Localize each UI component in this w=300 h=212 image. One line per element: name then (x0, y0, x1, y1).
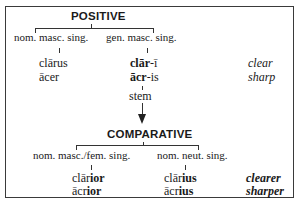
positive-right-tick (147, 48, 148, 53)
comparative-left-label: nom. masc./fem. sing. (33, 149, 130, 161)
stem: ācr (130, 70, 147, 84)
stem: ācr (164, 184, 179, 198)
form-acrius: ācrius (164, 184, 193, 199)
positive-heading: POSITIVE (71, 10, 126, 22)
form-clarus: clārus (39, 56, 68, 71)
stem: clār (164, 171, 182, 185)
down-arrow-icon (138, 114, 146, 124)
stem: clār (72, 171, 90, 185)
gloss-clear: clear (248, 56, 273, 71)
form-acr-is: ācr-is (130, 70, 159, 85)
comparative-right-label: nom. neut. sing. (157, 149, 228, 161)
comparative-bracket (76, 145, 198, 146)
ending: ior (90, 171, 105, 185)
form-acrior: ācrior (72, 184, 101, 199)
stem-label: stem (129, 89, 152, 104)
ending: -is (147, 70, 159, 84)
ending: ius (182, 171, 197, 185)
positive-left-label: nom. masc. sing. (14, 31, 88, 43)
form-acer: ācer (39, 70, 59, 85)
stem: clār (130, 56, 150, 70)
positive-right-label: gen. masc. sing. (106, 31, 177, 43)
stem: ācr (72, 184, 87, 198)
gloss-sharp: sharp (248, 70, 275, 85)
form-clar-i: clār-ī (130, 56, 157, 71)
ending: ior (87, 184, 102, 198)
positive-bracket (35, 28, 153, 29)
comparative-left-tick (91, 165, 92, 170)
positive-left-tick (59, 48, 60, 53)
gloss-sharper: sharper (246, 184, 284, 199)
ending: ius (179, 184, 194, 198)
comparative-right-tick (185, 165, 186, 170)
ending: -ī (150, 56, 157, 70)
comparative-heading: COMPARATIVE (107, 128, 192, 140)
